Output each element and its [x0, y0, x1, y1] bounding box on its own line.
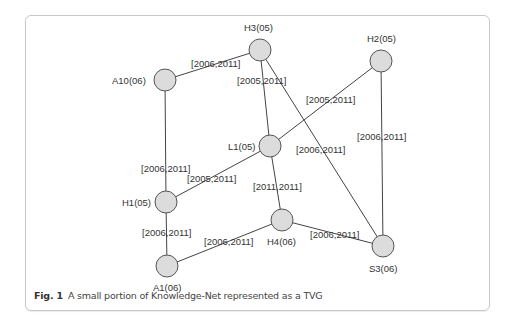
node-l1: [259, 135, 281, 157]
node-s3: [372, 235, 394, 257]
edge-label-l1-h1: [2005,2011]: [187, 173, 236, 184]
figure-caption: Fig. 1A small portion of Knowledge-Net r…: [34, 290, 322, 301]
edge-label-a10-h1: [2006,2011]: [141, 163, 190, 174]
node-h3: [249, 39, 271, 61]
node-h1: [155, 191, 177, 213]
node-a10: [154, 69, 176, 91]
edge-label-h3-s3: [2006,2011]: [296, 144, 345, 155]
node-labels: H3(05) A10(06) H2(05) L1(05) H1(05) H4(0…: [112, 22, 398, 293]
tvg-graph: [2006,2011] [2005,2011] [2006,2011] [200…: [0, 0, 515, 328]
edge-label-a10-h3: [2006,2011]: [191, 58, 240, 69]
edge-label-a1-h4: [2006,2011]: [204, 236, 253, 247]
edge-label-h4-s3: [2006,2011]: [310, 229, 359, 240]
figure-number: Fig. 1: [34, 290, 63, 301]
node-h2: [370, 50, 392, 72]
node-h4: [271, 209, 293, 231]
edge-label-h3-l1: [2005,2011]: [237, 75, 286, 86]
edge-label-h1-a1: [2006,2011]: [142, 227, 191, 238]
node-label-l1: L1(05): [228, 141, 255, 152]
node-label-a10: A10(06): [112, 75, 146, 86]
edge-label-h2-s3: [2006,2011]: [357, 131, 406, 142]
edge-h2-s3: [381, 61, 383, 246]
node-label-h3: H3(05): [244, 22, 273, 33]
figure-caption-text: A small portion of Knowledge-Net represe…: [68, 290, 323, 301]
node-label-s3: S3(06): [369, 263, 398, 274]
node-label-h4: H4(06): [267, 236, 296, 247]
edge-label-h2-l1: [2005,2011]: [306, 94, 355, 105]
edge-label-l1-h4: [2011,2011]: [253, 181, 302, 192]
node-label-h1: H1(05): [122, 197, 151, 208]
node-a1: [156, 255, 178, 277]
edge-a10-h1: [165, 80, 166, 202]
node-label-h2: H2(05): [367, 33, 396, 44]
